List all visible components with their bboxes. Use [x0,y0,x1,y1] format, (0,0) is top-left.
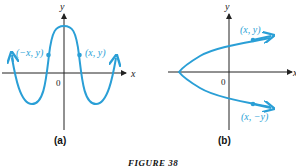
point-bottom-label-b: (x, −y) [241,111,269,123]
point-top-label-b: (x, y) [240,24,261,36]
origin-label-a: 0 [56,78,61,88]
panel-a [2,14,126,130]
y-axis-label-b: y [224,1,230,12]
origin-label-b: 0 [221,77,226,87]
panel-b-label: (b) [218,135,231,146]
point-bottom-b [251,102,256,107]
y-axis-label-a: y [59,1,65,12]
panel-a-label: (a) [54,135,66,146]
point-left-a [46,53,51,58]
point-left-label-a: (−x, y) [16,47,44,59]
panel-b [168,14,292,130]
figure-canvas: y x 0 (−x, y) (x, y) (a) y x 0 (x, y) (x… [0,0,296,167]
figure-caption: FIGURE 38 [127,158,178,167]
x-axis-label-b: x [292,67,296,78]
x-axis-label-a: x [130,68,136,79]
point-right-label-a: (x, y) [85,47,106,59]
point-top-b [251,38,256,43]
point-right-a [77,53,82,58]
